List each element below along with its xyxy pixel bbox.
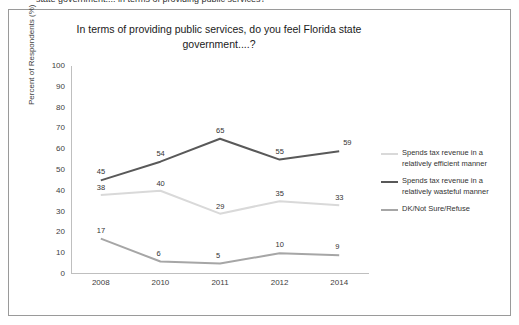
legend-item: Spends tax revenue in a relatively effic… — [381, 148, 513, 169]
y-axis-tick: 60 — [39, 144, 65, 153]
legend-label-wasteful: Spends tax revenue in a relatively waste… — [402, 176, 513, 197]
data-label: 10 — [276, 240, 284, 249]
y-axis-tick: 20 — [39, 227, 65, 236]
y-axis-tick: 70 — [39, 123, 65, 132]
data-label: 35 — [276, 189, 284, 198]
series-lines — [71, 66, 369, 274]
y-axis-tick: 30 — [39, 207, 65, 216]
x-axis-tick: 2010 — [136, 278, 184, 287]
data-label: 59 — [343, 138, 351, 147]
y-axis-tick: 10 — [39, 248, 65, 257]
data-label: 6 — [156, 249, 160, 258]
x-axis-tick: 2012 — [256, 278, 304, 287]
y-axis-tick: 100 — [39, 61, 65, 70]
data-label: 45 — [97, 167, 105, 176]
x-axis-tick: 2014 — [315, 278, 363, 287]
legend-swatch-dk — [381, 209, 398, 211]
chart-title: In terms of providing public services, d… — [69, 22, 369, 52]
series-line — [101, 139, 339, 181]
y-axis-tick: 80 — [39, 103, 65, 112]
chart-frame: In terms of providing public services, d… — [8, 9, 511, 316]
legend-label-dk: DK/Not Sure/Refuse — [402, 204, 470, 215]
data-label: 5 — [216, 251, 220, 260]
data-label: 33 — [335, 193, 343, 202]
legend-swatch-efficient — [381, 153, 398, 155]
legend-swatch-wasteful — [381, 181, 398, 183]
plot-area: 0102030405060708090100200820102011201220… — [71, 66, 369, 274]
data-label: 55 — [276, 147, 284, 156]
x-axis-tick: 2008 — [77, 278, 125, 287]
y-axis-tick: 0 — [39, 269, 65, 278]
data-label: 29 — [216, 202, 224, 211]
legend-item: DK/Not Sure/Refuse — [381, 204, 513, 215]
data-label: 9 — [335, 242, 339, 251]
y-axis-tick: 40 — [39, 186, 65, 195]
data-label: 65 — [216, 126, 224, 135]
y-axis-tick: 90 — [39, 82, 65, 91]
y-axis-tick: 50 — [39, 165, 65, 174]
data-label: 17 — [97, 226, 105, 235]
cut-off-header-text: state government.... in terms of providi… — [36, 0, 266, 4]
data-label: 54 — [156, 149, 164, 158]
data-label: 40 — [156, 179, 164, 188]
legend: Spends tax revenue in a relatively effic… — [381, 148, 513, 222]
x-axis-tick: 2011 — [196, 278, 244, 287]
legend-item: Spends tax revenue in a relatively waste… — [381, 176, 513, 197]
legend-label-efficient: Spends tax revenue in a relatively effic… — [402, 148, 513, 169]
data-label: 38 — [97, 183, 105, 192]
chart-screenshot: state government.... in terms of providi… — [0, 0, 519, 325]
y-axis-label: Percent of Respondents (%) — [27, 5, 36, 106]
